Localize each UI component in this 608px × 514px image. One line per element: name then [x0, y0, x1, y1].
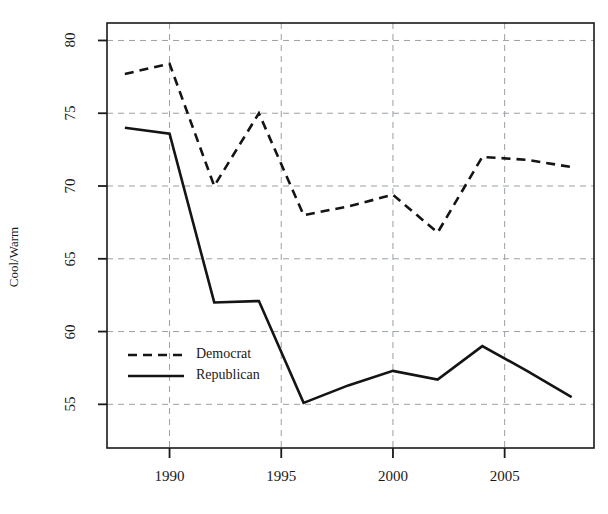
y-axis-label: Cool/Warm: [6, 227, 22, 287]
x-tick-label: 1995: [266, 468, 296, 485]
y-tick-label: 70: [62, 179, 79, 194]
y-tick-label: 65: [62, 251, 79, 266]
y-tick-label: 60: [62, 324, 79, 339]
legend-label-democrat: Democrat: [196, 346, 251, 362]
y-tick-label: 80: [62, 33, 79, 48]
y-axis-ticks: [98, 40, 107, 404]
x-tick-label: 2000: [378, 468, 408, 485]
legend-label-republican: Republican: [196, 367, 260, 383]
x-tick-label: 2005: [490, 468, 520, 485]
x-axis-ticks: [170, 448, 505, 458]
y-tick-label: 55: [62, 397, 79, 412]
y-tick-label: 75: [62, 106, 79, 121]
x-tick-label: 1990: [155, 468, 185, 485]
legend-sample-lines: [128, 355, 184, 376]
plot-area: [0, 0, 608, 514]
line-chart: Cool/Warm 556065707580 1990199520002005 …: [0, 0, 608, 514]
vertical-gridlines: [170, 23, 505, 448]
